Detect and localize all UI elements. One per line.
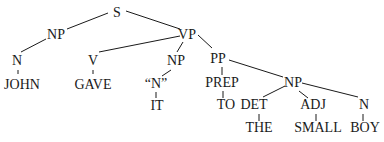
- tree-edge: [198, 35, 212, 48]
- tree-node-vp: VP: [178, 27, 196, 42]
- tree-edge: [302, 83, 358, 97]
- tree-node-gave: GAVE: [74, 77, 111, 92]
- tree-edge: [126, 11, 180, 29]
- tree-node-qn: “N”: [145, 76, 168, 91]
- tree-node-prep: PREP: [205, 75, 239, 90]
- tree-node-np1: NP: [47, 27, 65, 42]
- tree-edge: [177, 42, 183, 52]
- tree-nodes: SNPVPNJOHNVGAVENP“N”ITPPPREPTONPDETTHEAD…: [4, 5, 380, 135]
- parse-tree-diagram: SNPVPNJOHNVGAVENP“N”ITPPPREPTONPDETTHEAD…: [0, 0, 384, 142]
- tree-node-np3: NP: [284, 75, 302, 90]
- tree-node-to: TO: [217, 97, 235, 112]
- tree-edge: [67, 13, 108, 29]
- tree-node-s: S: [113, 5, 121, 20]
- tree-node-v: V: [88, 53, 98, 68]
- tree-edge: [99, 36, 180, 52]
- tree-node-it: IT: [150, 98, 164, 113]
- tree-node-n2: N: [359, 97, 369, 112]
- tree-node-np2: NP: [167, 53, 185, 68]
- tree-node-pp: PP: [210, 51, 226, 66]
- tree-node-n1: N: [12, 53, 22, 68]
- tree-node-the: THE: [245, 120, 272, 135]
- tree-edge: [21, 39, 46, 52]
- tree-node-adj: ADJ: [300, 97, 326, 112]
- tree-node-boy: BOY: [350, 120, 380, 135]
- tree-node-det: DET: [240, 97, 268, 112]
- tree-node-small: SMALL: [294, 120, 341, 135]
- tree-edge: [263, 86, 285, 97]
- tree-canvas: SNPVPNJOHNVGAVENP“N”ITPPPREPTONPDETTHEAD…: [0, 0, 384, 142]
- tree-node-john: JOHN: [4, 77, 40, 92]
